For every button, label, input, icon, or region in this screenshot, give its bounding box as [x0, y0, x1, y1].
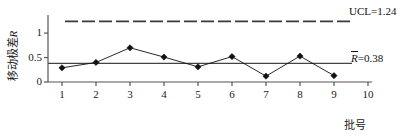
data-point-marker [59, 65, 65, 71]
data-point-marker [297, 53, 303, 59]
y-tick-label-0.5: 0.5 [14, 51, 42, 63]
y-tick-label-0: 0 [14, 75, 42, 87]
x-tick-label-2: 2 [86, 88, 106, 100]
data-point-marker [263, 73, 269, 79]
data-point-marker [93, 59, 99, 65]
ucl-annotation-label: UCL=1.24 [349, 5, 396, 17]
x-tick-label-6: 6 [222, 88, 242, 100]
x-tick-label-7: 7 [256, 88, 276, 100]
r-bar-symbol: R [351, 52, 358, 64]
x-tick-label-10: 10 [358, 88, 378, 100]
data-point-marker [331, 73, 337, 79]
x-tick-label-1: 1 [52, 88, 72, 100]
center-line-annotation-label: R=0.38 [351, 52, 383, 64]
x-tick-label-5: 5 [188, 88, 208, 100]
r-bar-value: =0.38 [358, 52, 383, 64]
x-tick-label-3: 3 [120, 88, 140, 100]
data-point-marker [195, 64, 201, 70]
x-axis-title: 批号 [344, 116, 366, 132]
x-tick-label-8: 8 [290, 88, 310, 100]
x-tick-label-4: 4 [154, 88, 174, 100]
data-point-marker [127, 45, 133, 51]
data-point-marker [161, 54, 167, 60]
data-point-marker [229, 53, 235, 59]
x-tick-label-9: 9 [324, 88, 344, 100]
y-tick-label-1: 1 [14, 26, 42, 38]
series-line-0 [62, 48, 334, 76]
moving-range-control-chart: 移动极差R 批号 1234567891000.51 UCL=1.24 R=0.3… [0, 0, 408, 140]
